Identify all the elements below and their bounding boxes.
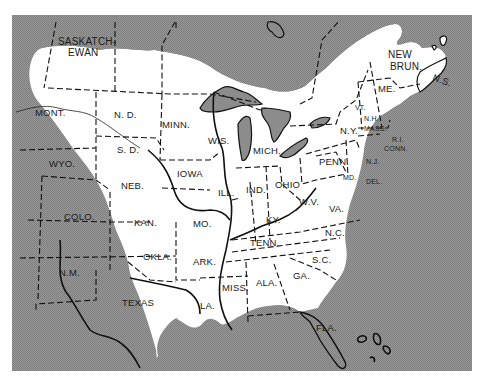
label-mont: MONT. [35, 107, 66, 118]
label-mass: MASS. [364, 125, 387, 132]
label-mo: MO. [193, 218, 212, 229]
label-wv: W.V. [299, 196, 319, 207]
label-ill: ILL. [218, 187, 235, 198]
label-minn: MINN. [162, 119, 190, 130]
label-saskatchewan-1: SASKATCH- [58, 36, 116, 47]
label-sc: S.C. [312, 254, 331, 265]
label-kan: KAN. [134, 217, 157, 228]
label-nm: N.M. [59, 267, 80, 278]
label-mich: MICH. [253, 145, 281, 156]
label-nd: N. D. [114, 109, 137, 120]
label-iowa: IOWA [177, 168, 203, 179]
label-fla: FLA. [316, 322, 337, 333]
label-texas: TEXAS [122, 297, 154, 308]
label-ny: N.Y. [340, 125, 358, 136]
label-ri: R.I. [392, 136, 404, 143]
label-new-brunswick-2: BRUN. [390, 61, 422, 72]
label-penn: PENN. [319, 156, 349, 167]
label-saskatchewan-2: EWAN [68, 47, 98, 58]
range-map: SASKATCH- EWAN NEW BRUN. N.S. MONT. N. D… [0, 0, 479, 384]
label-la: LA. [200, 300, 215, 311]
label-sd: S. D. [117, 144, 139, 155]
label-wis: WIS. [208, 135, 229, 146]
label-tenn: TENN. [250, 237, 280, 248]
label-del: DEL. [366, 178, 382, 185]
label-me: ME. [378, 83, 396, 94]
label-nc: N.C. [325, 227, 345, 238]
label-conn: CONN. [384, 145, 408, 152]
label-okla: OKLA. [143, 251, 172, 262]
label-new-brunswick-1: NEW [388, 49, 412, 60]
label-ohio: OHIO [275, 179, 300, 190]
label-nj: N.J. [366, 158, 379, 165]
label-md: MD. [343, 174, 356, 181]
label-wyo: WYO. [49, 158, 75, 169]
label-ark: ARK. [193, 256, 216, 267]
label-neb: NEB. [121, 180, 144, 191]
label-vt: VT. [355, 104, 366, 111]
label-ga: GA. [293, 270, 310, 281]
label-miss: MISS. [222, 282, 249, 293]
label-ala: ALA. [256, 277, 277, 288]
label-colo: COLO. [64, 211, 95, 222]
label-ind: IND. [246, 184, 266, 195]
label-ky: KY. [266, 214, 281, 225]
label-va: VA. [329, 203, 344, 214]
label-nh: N.H. [364, 115, 379, 122]
